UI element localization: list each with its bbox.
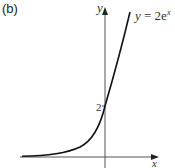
exponential-curve xyxy=(22,12,130,156)
x-axis-label: x xyxy=(152,157,157,168)
y-intercept-label: 2 xyxy=(96,101,102,113)
equation-label: y = 2ex xyxy=(135,8,170,24)
equation-rhs: = 2e xyxy=(141,8,167,23)
chart-plot xyxy=(0,0,175,168)
equation-exponent: x xyxy=(167,8,171,17)
y-axis-label: y xyxy=(97,0,103,16)
